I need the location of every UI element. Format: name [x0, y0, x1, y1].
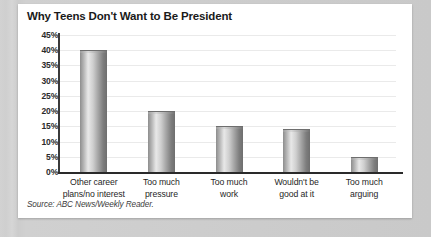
x-category-label: Wouldn't begood at it [263, 177, 331, 200]
bar [148, 111, 175, 172]
y-axis-line [58, 33, 60, 174]
x-category-label-line: work [195, 189, 263, 201]
screenshot-root: Why Teens Don't Want to Be President 45%… [0, 0, 431, 237]
source-note: Source: ABC News/Weekly Reader. [27, 200, 154, 209]
x-category-label: Other careerplans/no interest [60, 177, 128, 200]
bar [216, 126, 243, 172]
bar-series [58, 35, 396, 172]
x-category-label-line: arguing [330, 189, 398, 201]
chart-card: Why Teens Don't Want to Be President 45%… [18, 4, 412, 218]
x-category-label-line: Too much [195, 177, 263, 189]
x-category-label-line: Other career [60, 177, 128, 189]
bar [80, 50, 107, 172]
x-category-label: Too muchpressure [128, 177, 196, 200]
plot-area [58, 35, 396, 172]
x-category-label: Too mucharguing [330, 177, 398, 200]
source-prefix: Source: ABC News/ [27, 200, 97, 209]
x-category-label-line: Too much [128, 177, 196, 189]
y-axis-labels: 45%40%35%30%25%20%15%10%5%0% [18, 4, 58, 218]
source-italic: Weekly Reader [97, 200, 151, 209]
x-category-label-line: plans/no interest [60, 189, 128, 201]
bar [283, 129, 310, 172]
bar [351, 157, 378, 172]
x-category-label: Too muchwork [195, 177, 263, 200]
x-axis-baseline [58, 172, 403, 174]
x-category-label-line: pressure [128, 189, 196, 201]
source-suffix: . [152, 200, 154, 209]
x-category-label-line: Too much [330, 177, 398, 189]
x-category-label-line: good at it [263, 189, 331, 201]
x-category-label-line: Wouldn't be [263, 177, 331, 189]
